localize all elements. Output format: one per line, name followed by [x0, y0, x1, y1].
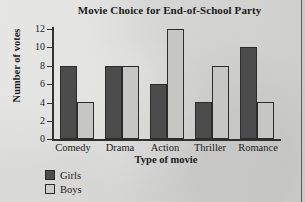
- x-tick-label-comedy: Comedy: [52, 142, 94, 154]
- bar-action-girls: [150, 84, 167, 139]
- page-edge-line: [301, 0, 302, 202]
- page-margin: [302, 0, 305, 202]
- legend-swatch-girls-icon: [45, 170, 55, 180]
- x-tick-label-action: Action: [145, 142, 185, 154]
- y-tick-label-0: 0: [23, 134, 45, 144]
- y-tick-label-4: 4: [23, 98, 45, 108]
- bar-thriller-girls: [195, 102, 212, 139]
- x-tick-label-thriller: Thriller: [189, 142, 231, 154]
- bar-romance-boys: [257, 102, 274, 139]
- x-tick-label-drama: Drama: [101, 142, 139, 154]
- y-axis-label: Number of votes: [11, 20, 22, 112]
- chart-figure: Movie Choice for End-of-School Party 12 …: [0, 0, 305, 202]
- y-tick-label-12: 12: [23, 24, 45, 34]
- bar-comedy-boys: [77, 102, 94, 139]
- plot-area: [52, 29, 280, 139]
- chart-title: Movie Choice for End-of-School Party: [52, 4, 287, 17]
- bar-thriller-boys: [212, 66, 229, 139]
- y-tick-label-6: 6: [23, 79, 45, 89]
- x-axis-line: [52, 139, 281, 141]
- chart-legend: Girls Boys: [45, 168, 82, 196]
- x-tick-label-romance: Romance: [235, 142, 281, 154]
- bar-drama-girls: [105, 66, 122, 139]
- bar-romance-girls: [240, 47, 257, 139]
- y-tick-label-10: 10: [23, 42, 45, 52]
- x-axis-label: Type of movie: [52, 154, 280, 165]
- y-tick-label-2: 2: [23, 116, 45, 126]
- bar-drama-boys: [122, 66, 139, 139]
- legend-label-boys: Boys: [60, 184, 82, 195]
- legend-item-boys: Boys: [45, 182, 82, 196]
- legend-item-girls: Girls: [45, 168, 82, 182]
- legend-label-girls: Girls: [60, 170, 81, 181]
- legend-swatch-boys-icon: [45, 184, 55, 194]
- y-tick-label-8: 8: [23, 61, 45, 71]
- bar-action-boys: [167, 29, 184, 139]
- bar-comedy-girls: [60, 66, 77, 139]
- y-tick-0: [47, 139, 53, 140]
